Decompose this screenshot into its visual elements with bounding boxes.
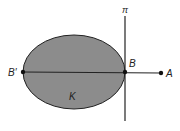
point-b-label: B [129, 58, 136, 69]
plane-pi-label: π [122, 5, 129, 15]
point-b-prime-dot [21, 70, 25, 74]
point-a-label: A [165, 68, 173, 79]
point-a-dot [159, 71, 163, 75]
point-b-prime-label: B′ [8, 67, 18, 78]
diagram-canvas: π B B′ A K [0, 0, 180, 131]
point-b-dot [123, 70, 127, 74]
